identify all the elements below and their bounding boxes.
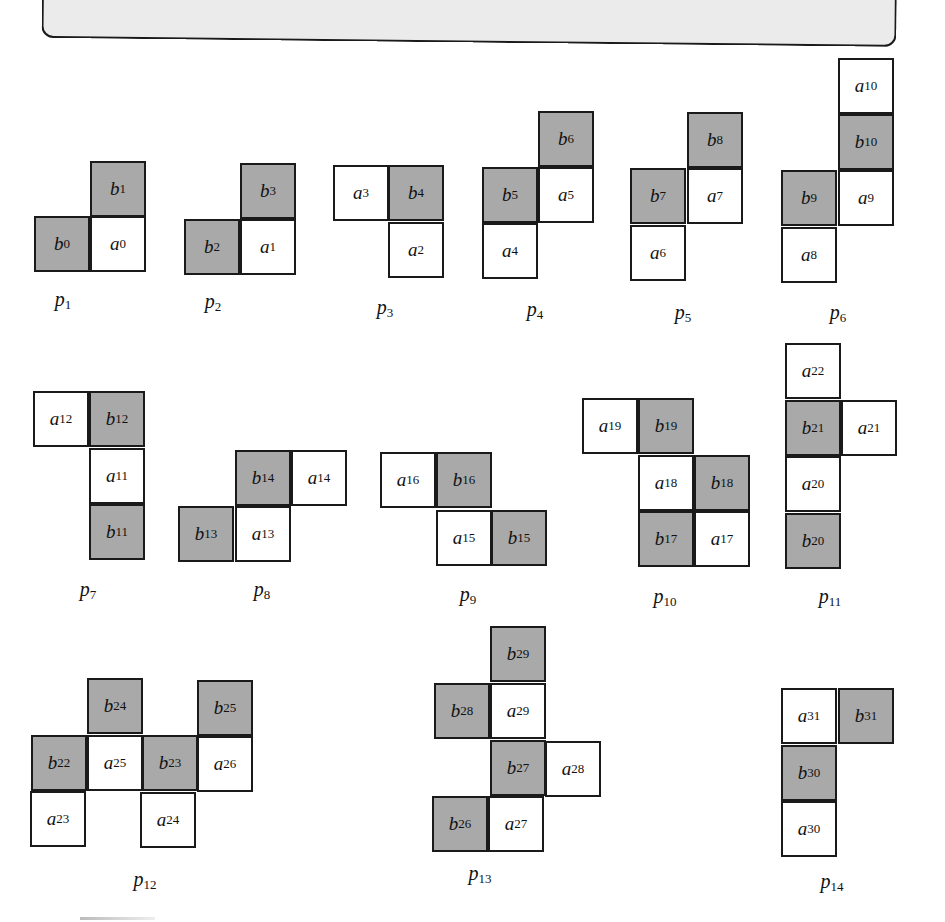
cell-var: a [502,240,512,262]
cell-var: a [798,705,808,727]
cell-b14: b14 [235,450,291,506]
cell-subscript: 17 [720,531,733,547]
cell-var: a [157,809,167,831]
cell-subscript: 29 [516,703,529,719]
cell-var: a [308,467,318,489]
cell-var: b [106,521,116,543]
cell-subscript: 15 [517,530,530,546]
cell-var: a [505,813,515,835]
cell-subscript: 9 [868,190,875,206]
piece-label-subscript: 1 [65,297,72,312]
cell-var: a [858,187,868,209]
cell-var: b [558,128,568,150]
cell-b30: b30 [781,745,837,801]
cell-var: a [252,523,262,545]
cell-subscript: 18 [664,475,677,491]
cell-a9: a9 [838,170,894,226]
cell-subscript: 17 [664,531,677,547]
cell-var: b [104,695,114,717]
cell-subscript: 14 [261,470,274,486]
cell-var: b [449,813,459,835]
cell-subscript: 31 [864,708,877,724]
cell-var: b [711,472,721,494]
cell-var: b [855,705,865,727]
cell-a14: a14 [291,450,347,506]
cell-subscript: 24 [166,812,179,828]
cell-b24: b24 [87,678,143,734]
cell-var: b [195,523,205,545]
cell-subscript: 11 [115,468,128,484]
cell-subscript: 30 [807,765,820,781]
cell-b3: b3 [240,163,296,219]
piece-label-subscript: 13 [479,871,492,886]
piece-label-var: p [675,301,685,323]
cell-var: b [650,185,660,207]
cell-var: b [204,236,214,258]
piece-label: p11 [819,585,842,610]
cell-var: b [507,757,517,779]
cell-b13: b13 [178,506,234,562]
cell-subscript: 26 [458,816,471,832]
cell-a22: a22 [785,343,841,399]
cell-b27: b27 [490,740,546,796]
cell-subscript: 20 [811,533,824,549]
cell-subscript: 5 [568,187,575,203]
cell-subscript: 8 [811,247,818,263]
cell-subscript: 13 [204,526,217,542]
cell-b7: b7 [630,168,686,224]
cell-subscript: 31 [807,708,820,724]
cell-subscript: 21 [811,420,824,436]
piece-label-var: p [377,296,387,318]
cell-var: a [110,233,120,255]
piece-label-var: p [460,583,470,605]
cell-subscript: 18 [720,475,733,491]
cell-subscript: 23 [56,811,69,827]
cell-var: b [855,131,865,153]
piece-label-subscript: 7 [90,587,97,602]
cell-subscript: 3 [363,185,370,201]
cell-var: a [798,818,808,840]
cell-subscript: 20 [811,476,824,492]
cell-var: a [453,527,463,549]
cell-subscript: 2 [214,239,221,255]
cell-subscript: 7 [717,188,724,204]
cell-a20: a20 [785,456,841,512]
cell-var: a [599,415,609,437]
cell-b18: b18 [694,455,750,511]
cell-a1: a1 [240,219,296,275]
cell-subscript: 25 [113,755,126,771]
cell-a19: a19 [582,398,638,454]
piece-label: p13 [469,862,492,887]
cell-a16: a16 [380,452,436,508]
cell-subscript: 12 [59,411,72,427]
cell-var: b [54,233,64,255]
cell-subscript: 9 [811,190,818,206]
cell-subscript: 30 [807,821,820,837]
cell-b17: b17 [638,511,694,567]
cell-b10: b10 [838,114,894,170]
cell-var: a [650,242,660,264]
cell-a18: a18 [638,455,694,511]
cell-subscript: 29 [516,646,529,662]
cell-subscript: 11 [115,524,128,540]
piece-label: p9 [460,583,477,608]
cell-b2: b2 [184,219,240,275]
cell-subscript: 16 [462,472,475,488]
piece-label-subscript: 14 [831,879,844,894]
cell-b20: b20 [785,513,841,569]
cell-var: b [707,129,717,151]
piece-label-subscript: 2 [215,299,222,314]
cell-b1: b1 [90,161,146,217]
cell-a26: a26 [197,736,253,792]
cell-var: a [711,528,721,550]
cell-a12: a12 [33,391,89,447]
cell-b29: b29 [490,626,546,682]
piece-label-var: p [80,578,90,600]
cell-var: a [397,469,407,491]
cell-subscript: 8 [717,132,724,148]
piece-label: p7 [80,578,97,603]
cell-a4: a4 [482,223,538,279]
cell-a28: a28 [545,741,601,797]
cell-subscript: 4 [512,243,519,259]
cell-var: a [104,752,114,774]
